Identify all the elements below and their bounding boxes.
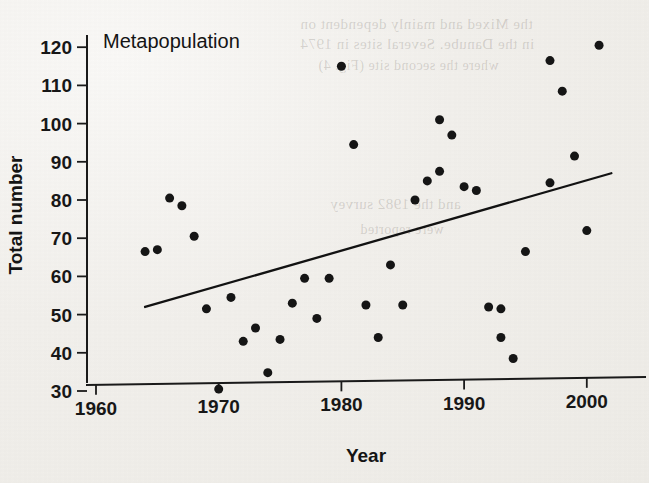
data-point <box>300 274 309 283</box>
data-point <box>435 167 444 176</box>
data-point <box>398 301 407 310</box>
y-tick-label: 120 <box>40 37 72 58</box>
data-point <box>386 260 395 269</box>
y-axis-title: Total number <box>5 155 26 275</box>
data-point <box>423 176 432 185</box>
y-tick-label: 110 <box>41 75 72 96</box>
data-point <box>435 115 444 124</box>
data-point <box>460 182 469 191</box>
data-point <box>545 178 554 187</box>
data-point <box>214 385 223 394</box>
y-axis-ticks: 12011010090807060504030 <box>40 37 87 402</box>
x-tick-label: 1970 <box>198 396 240 417</box>
data-point <box>361 301 370 310</box>
data-point <box>325 274 334 283</box>
data-point <box>411 196 420 205</box>
data-point <box>177 201 186 210</box>
data-point <box>374 333 383 342</box>
data-point <box>263 368 272 377</box>
data-point <box>595 41 604 50</box>
data-point <box>202 304 211 313</box>
data-point <box>190 232 199 241</box>
data-point <box>447 131 456 140</box>
data-point <box>337 62 346 71</box>
data-point <box>226 293 235 302</box>
data-point <box>570 152 579 161</box>
data-point <box>558 87 567 96</box>
data-point <box>521 247 530 256</box>
x-tick-label: 1960 <box>75 398 117 419</box>
x-tick-label: 2000 <box>566 391 608 412</box>
y-tick-label: 30 <box>51 381 72 402</box>
y-tick-label: 40 <box>51 343 72 364</box>
data-point <box>141 247 150 256</box>
data-point <box>349 140 358 149</box>
trend-line <box>145 173 611 307</box>
data-point <box>582 226 591 235</box>
data-point <box>509 354 518 363</box>
x-axis-title: Year <box>346 445 387 466</box>
data-point <box>496 333 505 342</box>
data-point-group <box>141 41 604 394</box>
data-point <box>153 245 162 254</box>
figure-page: the Mixed and mainly dependent onin the … <box>0 0 649 483</box>
x-axis-line <box>87 377 645 385</box>
y-tick-label: 80 <box>51 190 72 211</box>
y-tick-label: 90 <box>51 152 72 173</box>
x-tick-label: 1980 <box>320 394 362 415</box>
y-tick-label: 60 <box>51 266 72 287</box>
data-point <box>484 302 493 311</box>
panel-title: Metapopulation <box>103 30 240 52</box>
x-tick-label: 1990 <box>443 393 485 414</box>
y-tick-label: 70 <box>51 228 72 249</box>
data-point <box>545 56 554 65</box>
data-point <box>239 337 248 346</box>
data-point <box>472 186 481 195</box>
scatter-plot: Total number 12011010090807060504030 196… <box>0 0 649 483</box>
data-point <box>288 299 297 308</box>
data-point <box>312 314 321 323</box>
data-point <box>276 335 285 344</box>
data-point <box>165 194 174 203</box>
y-tick-label: 50 <box>51 305 72 326</box>
y-tick-label: 100 <box>40 114 72 135</box>
data-point <box>496 304 505 313</box>
data-point <box>251 323 260 332</box>
